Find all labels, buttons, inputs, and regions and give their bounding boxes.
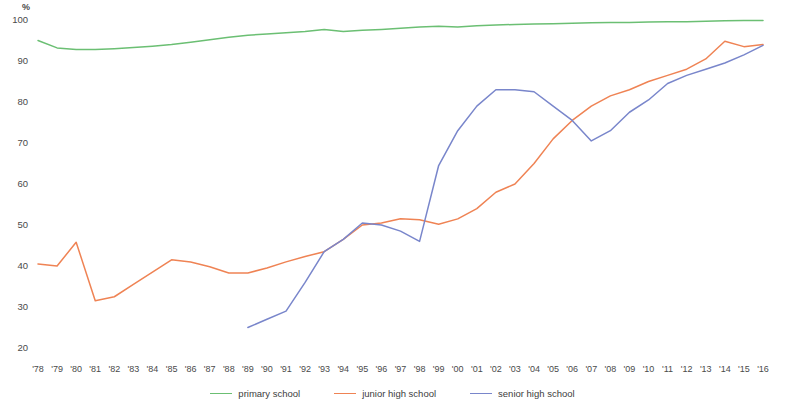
legend-line-swatch [210,393,232,394]
chart-legend: primary schooljunior high schoolsenior h… [0,388,785,399]
legend-item-senior-high-school[interactable]: senior high school [470,388,575,399]
legend-label: senior high school [498,388,575,399]
legend-line-swatch [334,393,356,394]
series-line-junior-high-school [38,41,763,301]
line-chart: % 1009080706050403020 '78'79'80'81'82'83… [0,0,785,408]
legend-label: primary school [238,388,300,399]
legend-item-junior-high-school[interactable]: junior high school [334,388,436,399]
legend-line-swatch [470,393,492,394]
legend-label: junior high school [362,388,436,399]
series-line-senior-high-school [248,45,763,327]
series-line-primary-school [38,20,763,49]
plot-area [0,0,785,408]
legend-item-primary-school[interactable]: primary school [210,388,300,399]
